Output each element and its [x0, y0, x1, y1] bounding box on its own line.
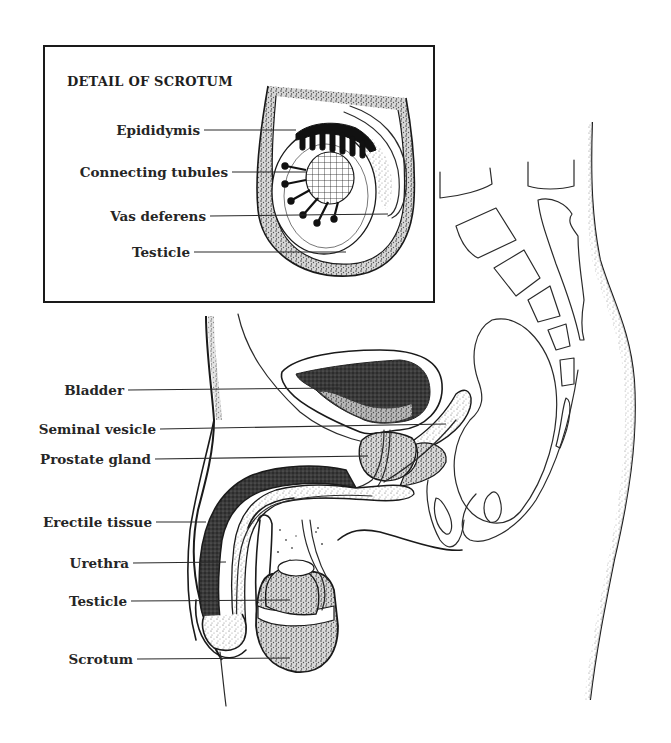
label-epididymis: Epididymis	[116, 122, 200, 138]
label-testicle: Testicle	[69, 593, 127, 609]
spine-vertebrae	[440, 160, 584, 541]
inset-title: DETAIL OF SCROTUM	[67, 74, 233, 89]
rectum	[454, 319, 557, 523]
label-seminal-vesicle: Seminal vesicle	[39, 421, 156, 437]
scrotum-detail-inset: DETAIL OF SCROTUM	[44, 46, 434, 302]
glans	[202, 614, 246, 650]
label-connecting-tubules: Connecting tubules	[80, 164, 229, 180]
male-reproductive-anatomy-diagram: DETAIL OF SCROTUM	[0, 0, 671, 743]
label-urethra: Urethra	[70, 555, 130, 571]
inset-connecting-tubules	[306, 152, 354, 204]
label-prostate-gland: Prostate gland	[40, 451, 152, 467]
label-inset-testicle: Testicle	[132, 244, 190, 260]
label-vas-deferens: Vas deferens	[109, 208, 206, 224]
label-bladder: Bladder	[64, 382, 125, 398]
label-scrotum: Scrotum	[69, 651, 133, 667]
label-erectile-tissue: Erectile tissue	[43, 514, 152, 530]
